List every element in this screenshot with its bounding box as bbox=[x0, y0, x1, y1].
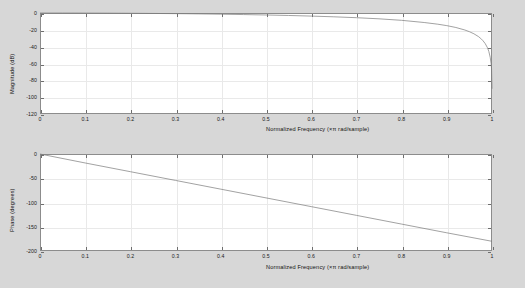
x-tick-label: 0.7 bbox=[353, 116, 361, 122]
y-tick-label: -100 bbox=[18, 200, 37, 206]
figure-window: 00.10.20.30.40.50.60.70.80.91 0-20-40-60… bbox=[0, 0, 525, 288]
x-tick-label: 0.3 bbox=[172, 116, 180, 122]
y-tick-label: -150 bbox=[18, 224, 37, 230]
x-tick-label: 0 bbox=[39, 116, 42, 122]
phase-y-axis-title: Phase (degrees) bbox=[9, 188, 15, 232]
x-tick-label: 0.5 bbox=[262, 253, 270, 259]
x-tick-label: 0.9 bbox=[443, 116, 451, 122]
magnitude-subplot bbox=[40, 13, 492, 114]
x-tick-mark bbox=[493, 155, 494, 158]
x-tick-mark bbox=[493, 110, 494, 113]
x-tick-label: 0.5 bbox=[262, 116, 270, 122]
magnitude-curve bbox=[40, 13, 492, 114]
x-tick-label: 0.8 bbox=[398, 253, 406, 259]
y-tick-label: -100 bbox=[18, 94, 37, 100]
y-tick-label: -200 bbox=[18, 248, 37, 254]
x-tick-label: 0.6 bbox=[307, 253, 315, 259]
x-tick-label: 0.7 bbox=[353, 253, 361, 259]
y-tick-label: -20 bbox=[18, 27, 37, 33]
x-tick-label: 0.4 bbox=[217, 253, 225, 259]
x-tick-label: 0.8 bbox=[398, 116, 406, 122]
y-tick-label: -80 bbox=[18, 77, 37, 83]
y-tick-label: 0 bbox=[18, 151, 37, 157]
magnitude-y-axis-title: Magnitude (dB) bbox=[9, 54, 15, 94]
x-tick-label: 0 bbox=[39, 253, 42, 259]
y-tick-label: -40 bbox=[18, 44, 37, 50]
x-tick-label: 0.2 bbox=[127, 253, 135, 259]
x-tick-label: 0.3 bbox=[172, 253, 180, 259]
phase-subplot bbox=[40, 154, 492, 251]
x-tick-label: 1 bbox=[491, 116, 494, 122]
x-tick-label: 0.6 bbox=[307, 116, 315, 122]
y-tick-label: -120 bbox=[18, 111, 37, 117]
y-tick-label: 0 bbox=[18, 10, 37, 16]
x-tick-label: 1 bbox=[491, 253, 494, 259]
x-tick-label: 0.4 bbox=[217, 116, 225, 122]
x-tick-label: 0.1 bbox=[81, 116, 89, 122]
y-tick-label: -50 bbox=[18, 175, 37, 181]
x-tick-mark bbox=[493, 247, 494, 250]
y-tick-label: -60 bbox=[18, 61, 37, 67]
x-tick-label: 0.2 bbox=[127, 116, 135, 122]
x-tick-mark bbox=[493, 14, 494, 17]
phase-curve bbox=[40, 154, 492, 251]
x-tick-label: 0.1 bbox=[81, 253, 89, 259]
x-tick-label: 0.9 bbox=[443, 253, 451, 259]
